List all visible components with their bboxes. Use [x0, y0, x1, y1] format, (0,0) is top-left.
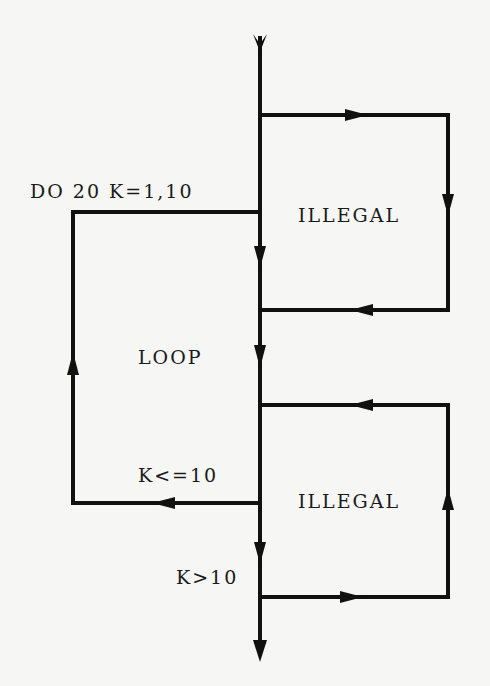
arrow-left-icon — [152, 497, 175, 509]
arrow-up-icon — [67, 352, 79, 375]
loop-label: LOOP — [138, 348, 203, 367]
arrow-left-icon — [350, 304, 373, 316]
arrow-down-icon — [254, 246, 266, 268]
diagram-lines — [0, 0, 490, 686]
arrow-up-icon — [442, 488, 454, 510]
arrow-down-icon — [442, 194, 454, 216]
illegal-top-label: ILLEGAL — [298, 206, 400, 225]
continue-condition-label: K<=10 — [138, 466, 218, 485]
exit-condition-label: K>10 — [176, 568, 238, 587]
exit-arrow-icon — [253, 640, 267, 662]
arrow-down-icon — [254, 345, 266, 368]
arrow-right-icon — [340, 591, 363, 603]
do-statement-label: DO 20 K=1,10 — [30, 182, 194, 201]
arrow-down-icon — [254, 542, 266, 564]
do-loop-flow-diagram: DO 20 K=1,10 ILLEGAL LOOP K<=10 ILLEGAL … — [0, 0, 490, 686]
illegal-bottom-label: ILLEGAL — [298, 492, 400, 511]
arrow-left-icon — [350, 399, 373, 411]
arrow-right-icon — [345, 109, 368, 121]
